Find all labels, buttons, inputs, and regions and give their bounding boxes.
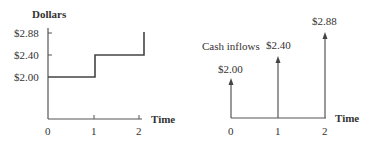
cash-inflows-label: Cash inflows bbox=[202, 40, 260, 52]
x-tick-1: 1 bbox=[91, 125, 97, 137]
arrow-up-icon bbox=[276, 56, 281, 63]
x-axis-label: Time bbox=[151, 113, 175, 125]
x-tick-0: 0 bbox=[228, 125, 234, 137]
x-axis-label: Time bbox=[335, 112, 359, 124]
label-2-00: $2.00 bbox=[218, 63, 243, 75]
y-tick-2-40: $2.40 bbox=[14, 49, 39, 61]
x-tick-1: 1 bbox=[275, 125, 281, 137]
y-tick-2-00: $2.00 bbox=[14, 71, 39, 83]
x-tick-0: 0 bbox=[45, 125, 51, 137]
step-chart: Dollars $2.88 $2.40 $2.00 0 1 2 Time bbox=[14, 8, 175, 137]
cash-flow-figure: Dollars $2.88 $2.40 $2.00 0 1 2 Time Cas… bbox=[0, 0, 374, 147]
x-tick-2: 2 bbox=[136, 125, 142, 137]
y-axis-label: Dollars bbox=[32, 8, 67, 20]
arrow-up-icon bbox=[323, 32, 328, 39]
label-2-40: $2.40 bbox=[266, 39, 291, 51]
arrow-chart: Cash inflows $2.00 $2.40 $2.88 0 1 2 Tim… bbox=[202, 15, 359, 137]
step-line bbox=[48, 32, 144, 77]
arrow-up-icon bbox=[229, 78, 234, 85]
y-tick-2-88: $2.88 bbox=[14, 27, 39, 39]
x-tick-2: 2 bbox=[322, 125, 328, 137]
label-2-88: $2.88 bbox=[312, 15, 337, 27]
